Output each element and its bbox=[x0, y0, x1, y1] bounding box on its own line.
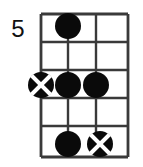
note-dot-marker bbox=[55, 72, 81, 98]
note-dot bbox=[55, 13, 81, 39]
note-dot bbox=[55, 72, 81, 98]
fretboard-grid bbox=[0, 0, 143, 167]
chord-diagram: 5 bbox=[0, 0, 143, 167]
note-dot bbox=[83, 72, 109, 98]
note-dot bbox=[55, 131, 81, 157]
note-dot-marker bbox=[55, 131, 81, 157]
note-dot-marker bbox=[55, 13, 81, 39]
crossed-note-marker bbox=[28, 72, 54, 98]
note-dot-marker bbox=[83, 72, 109, 98]
crossed-note-marker bbox=[87, 131, 113, 157]
